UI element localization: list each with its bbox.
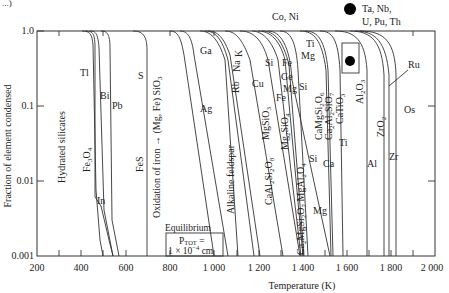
x-tick-label: 1 000: [203, 262, 226, 273]
label-cu: Cu: [252, 78, 264, 89]
label-ag: Ag: [200, 103, 212, 114]
x-tick-label: 600: [119, 262, 134, 273]
label-catio3: CaTiO3: [334, 93, 347, 124]
label-ti-top: Ti: [306, 38, 315, 49]
label-s: S: [138, 70, 144, 81]
curve-os: [360, 31, 396, 256]
x-tick-label: 400: [74, 262, 89, 273]
x-tick-label: 800: [163, 262, 178, 273]
label-si: Si: [265, 57, 274, 68]
label-fe-b: Fe: [276, 92, 287, 103]
label-ga: Ga: [200, 45, 212, 56]
x-axis-label: Temperature (K): [269, 280, 336, 292]
label-caal2si2o8: CaAl2Si2O8: [263, 157, 276, 205]
label-ge: Ge: [281, 71, 293, 82]
label-ru: Ru: [408, 59, 420, 70]
label-ca: Ca: [323, 158, 335, 169]
y-tick-label: 0.1: [22, 100, 35, 111]
legend-marker-icon: [344, 3, 356, 15]
x-tick-label: 1 400: [292, 262, 315, 273]
label-tl: Tl: [80, 67, 89, 78]
curve-s: [133, 31, 147, 256]
equilibrium-label: Equilibrium: [165, 223, 212, 233]
curve-si: [252, 31, 301, 256]
label-hydrated-silicates: Hydrated silicates: [56, 111, 67, 183]
label-fes: FeS: [134, 156, 145, 172]
label-mgsio3: MgSiO3: [260, 107, 273, 140]
legend-label: U, Pu, Th: [362, 16, 401, 27]
legend: Ta, Nb, U, Pu, Th: [344, 3, 401, 27]
label-os: Os: [404, 104, 415, 115]
x-tick-label: 1 800: [380, 262, 403, 273]
label-na: Na: [231, 60, 242, 72]
x-tick-label: 2 000: [421, 262, 444, 273]
label-mg-c: Mg: [313, 205, 327, 216]
label-fe3o4: Fe3O4: [81, 147, 94, 172]
y-tick-label: 1.0: [22, 25, 35, 36]
curve-ca2: [305, 31, 333, 256]
label-bi: Bi: [100, 90, 110, 101]
label-in: In: [97, 195, 105, 206]
refractory-marker: [345, 56, 355, 66]
top-fragment: ...): [2, 0, 12, 8]
y-axis-label: Fraction of element condensed: [2, 84, 13, 207]
curve-pb: [101, 31, 119, 256]
label-pb: Pb: [112, 100, 123, 111]
y-tick-label: 0.001: [12, 250, 35, 261]
label-si-b: Si: [299, 81, 308, 92]
condensation-chart: ...) 1.0 0.1 0.01 0.001 Fraction of elem…: [0, 0, 449, 293]
label-al2o3: Al2O3: [354, 79, 367, 104]
curve-na: [205, 31, 254, 256]
label-k: K: [233, 49, 244, 57]
label-fe: Fe: [282, 57, 293, 68]
label-ti: Ti: [339, 137, 348, 148]
label-si-c: Si: [309, 153, 318, 164]
label-al: Al: [367, 158, 377, 169]
label-co-ni: Co, Ni: [272, 11, 299, 22]
x-tick-label: 1 600: [336, 262, 359, 273]
x-tick-label: 1 200: [248, 262, 271, 273]
label-alkaline-feldspar: Alkaline feldspar: [225, 144, 236, 214]
label-ca2mgsi2o7-mgal2o4: Ca2MgSi2O7 MgAl2O4: [295, 163, 308, 255]
label-mg-top: Mg: [301, 50, 315, 61]
label-oxidation: Oxidation of iron → (Mg, Fe) SiO3: [151, 76, 164, 218]
ru-pointer: [389, 70, 408, 86]
legend-label: Ta, Nb,: [362, 3, 392, 14]
label-zro2: ZrO2: [375, 116, 388, 137]
label-rb: Rb: [230, 81, 241, 93]
y-tick-label: 0.01: [17, 175, 35, 186]
label-zr: Zr: [389, 151, 399, 162]
x-tick-label: 200: [30, 262, 45, 273]
ptot-value: 1 × 10−4 cm: [168, 244, 214, 256]
